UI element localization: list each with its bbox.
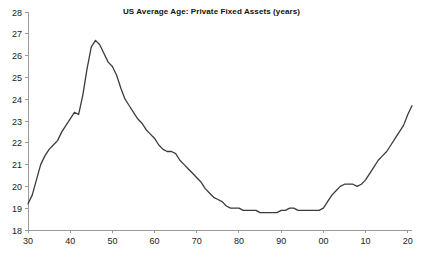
chart-container: US Average Age: Private Fixed Assets (ye… (0, 0, 423, 257)
x-tick-label: 80 (234, 236, 244, 246)
x-tick-label: 90 (276, 236, 286, 246)
line-chart-plot: 1819202122232425262728 30405060708090001… (0, 0, 423, 257)
x-tick-label: 40 (65, 236, 75, 246)
y-tick-label: 18 (12, 226, 22, 236)
y-tick-label: 25 (12, 73, 22, 83)
x-axis: 30405060708090001020 (23, 230, 413, 246)
x-tick-label: 10 (361, 236, 371, 246)
y-tick-label: 28 (12, 8, 22, 18)
y-tick-label: 24 (12, 95, 22, 105)
y-tick-label: 20 (12, 182, 22, 192)
y-tick-label: 27 (12, 29, 22, 39)
x-tick-label: 60 (150, 236, 160, 246)
y-tick-label: 19 (12, 204, 22, 214)
x-tick-label: 30 (23, 236, 33, 246)
y-tick-label: 23 (12, 117, 22, 127)
y-tick-label: 22 (12, 138, 22, 148)
x-tick-label: 00 (318, 236, 328, 246)
x-tick-label: 70 (192, 236, 202, 246)
x-tick-label: 20 (403, 236, 413, 246)
data-series-group (28, 40, 412, 212)
x-tick-label: 50 (107, 236, 117, 246)
series-line (28, 40, 412, 212)
y-axis: 1819202122232425262728 (12, 8, 28, 236)
y-tick-label: 26 (12, 51, 22, 61)
y-tick-label: 21 (12, 160, 22, 170)
